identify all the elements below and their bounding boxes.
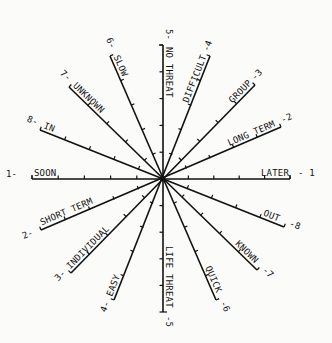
label-soon: SOON: [34, 168, 56, 178]
tick-mark: [182, 195, 184, 198]
label-soon-num: 1-: [6, 169, 17, 179]
label-later: LATER: [261, 168, 289, 178]
label-group-num: -3: [249, 67, 264, 82]
tick-mark: [211, 195, 212, 198]
tick-mark: [144, 158, 146, 161]
tick-mark: [260, 214, 261, 217]
label-no-threat-num: 5-: [164, 29, 174, 40]
tick-mark: [284, 224, 285, 227]
tick-mark: [65, 137, 66, 140]
tick-mark: [142, 195, 145, 197]
label-individual: INDIVIDUAL: [65, 224, 111, 271]
label-individual-num: 3-: [53, 268, 68, 283]
label-long-term: LONG TERM: [226, 118, 277, 147]
label-slow-num: 6-: [104, 36, 118, 50]
tick-mark: [207, 55, 210, 56]
tick-mark: [107, 121, 109, 124]
tick-mark: [89, 146, 90, 149]
label-difficult-num: -4: [201, 39, 214, 53]
label-unknown: UNKNOWN: [71, 81, 106, 116]
tick-mark: [219, 231, 221, 234]
label-quick-num: -6: [219, 299, 233, 313]
label-in-num: 8-: [26, 114, 40, 127]
tick-mark: [125, 140, 127, 143]
label-known-num: -7: [261, 265, 276, 280]
tick-mark: [280, 124, 281, 127]
label-easy-num: 4-: [98, 299, 111, 313]
label-life-threat-num: -5: [164, 316, 174, 327]
tick-mark: [114, 156, 115, 159]
tick-mark: [111, 299, 114, 300]
label-later-num: - 1: [298, 168, 315, 178]
tick-mark: [257, 268, 259, 271]
tick-mark: [216, 120, 219, 122]
star-diagram: 1- SOON LATER - 1 SHORT TERM 2- LONG TER…: [0, 0, 332, 343]
tick-mark: [197, 139, 200, 141]
label-out-num: -8: [288, 218, 302, 231]
label-out: OUT: [262, 208, 282, 224]
label-short-term: SHORT TERM: [39, 196, 95, 227]
center-hub: [161, 177, 166, 182]
label-unknown-num: 7-: [58, 68, 73, 83]
tick-mark: [179, 158, 182, 160]
tick-mark: [124, 214, 127, 216]
tick-mark: [40, 127, 41, 130]
tick-mark: [121, 79, 124, 80]
tick-mark: [236, 205, 237, 208]
tick-mark: [201, 213, 203, 216]
tick-mark: [216, 299, 219, 300]
tick-mark: [40, 227, 41, 230]
label-no-threat: NO THREAT: [164, 47, 174, 98]
label-life-threat: LIFE THREAT: [164, 246, 174, 308]
tick-mark: [110, 55, 113, 56]
label-short-term-num: 2-: [21, 227, 35, 241]
label-long-term-num: -2: [279, 111, 293, 125]
